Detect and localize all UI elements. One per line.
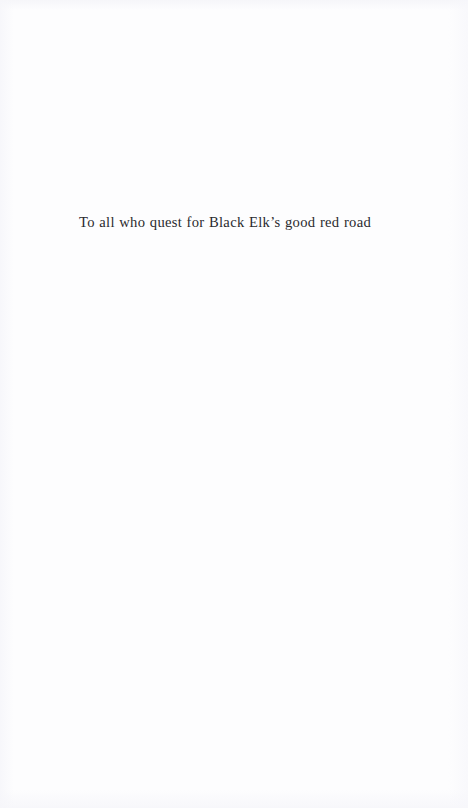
dedication-block: To all who quest for Black Elk’s good re… [0,212,468,232]
scan-texture-overlay [0,0,468,808]
dedication-page: To all who quest for Black Elk’s good re… [0,0,468,808]
dedication-text: To all who quest for Black Elk’s good re… [79,212,371,232]
